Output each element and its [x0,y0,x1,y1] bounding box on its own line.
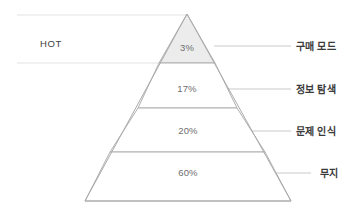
pyramid-svg [0,0,356,218]
hot-annotation-label: HOT [40,38,62,49]
pyramid-percent-label-2: 20% [178,125,197,136]
pyramid-tier-0[interactable] [159,14,215,63]
pyramid-stage-label-3: 무지 [320,165,338,180]
pyramid-stage-label-0: 구매 모드 [296,38,336,53]
pyramid-percent-label-1: 17% [177,83,196,94]
pyramid-stage-label-2: 문제 인식 [296,123,336,138]
pyramid-diagram-canvas: HOT 3% 17% 20% 60% 구매 모드 정보 탐색 문제 인식 무지 [0,0,356,218]
pyramid-stage-label-1: 정보 탐색 [296,81,336,96]
pyramid-percent-label-3: 60% [178,167,197,178]
pyramid-percent-label-0: 3% [180,42,194,53]
